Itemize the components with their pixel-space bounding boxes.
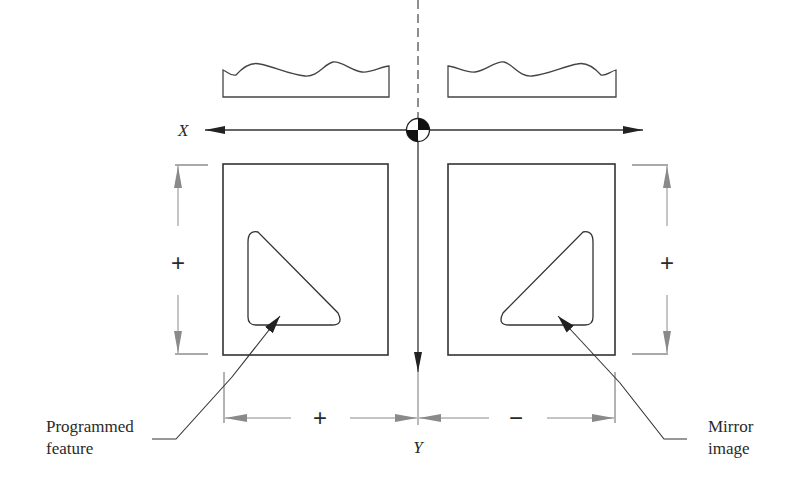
- dimension-right-sign: +: [660, 249, 674, 276]
- dimension-bottom: [224, 372, 615, 423]
- programmed-feature-triangle: [248, 232, 340, 325]
- origin-datum-icon: [407, 119, 430, 142]
- callout-programmed-line2: feature: [46, 439, 93, 458]
- stock-piece-left: [223, 62, 389, 97]
- x-axis-label: X: [177, 121, 189, 140]
- mirror-image-triangle: [501, 232, 593, 325]
- leader-mirror-image: [558, 316, 687, 439]
- dimension-bottom-left-sign: +: [313, 404, 327, 431]
- callout-programmed-line1: Programmed: [46, 417, 134, 436]
- leader-programmed-feature: [152, 316, 280, 439]
- y-axis-label: Y: [413, 438, 424, 457]
- callout-mirror-line2: image: [708, 439, 750, 458]
- workpiece-right: [448, 164, 615, 355]
- mirror-image-diagram: X + + + − Y: [0, 0, 801, 488]
- stock-piece-right: [448, 62, 616, 97]
- dimension-bottom-right-sign: −: [509, 404, 523, 431]
- dimension-left-sign: +: [171, 249, 185, 276]
- callout-mirror-line1: Mirror: [708, 417, 754, 436]
